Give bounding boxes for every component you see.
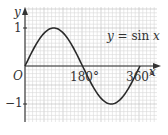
y-axis-arrow-icon — [22, 7, 28, 15]
legend-equation: y = sin x — [107, 30, 160, 42]
origin-label: O — [13, 70, 23, 82]
equation-sin: = sin — [114, 29, 149, 43]
y-tick-neg1: −1 — [5, 97, 23, 109]
equation-x: x — [149, 29, 160, 43]
sine-chart — [0, 0, 168, 135]
x-tick-180: 180° — [70, 71, 99, 83]
x-axis-label: x — [149, 66, 156, 78]
y-axis-label: y — [14, 6, 21, 18]
equation-y: y — [107, 29, 114, 43]
y-tick-1: 1 — [14, 22, 22, 34]
